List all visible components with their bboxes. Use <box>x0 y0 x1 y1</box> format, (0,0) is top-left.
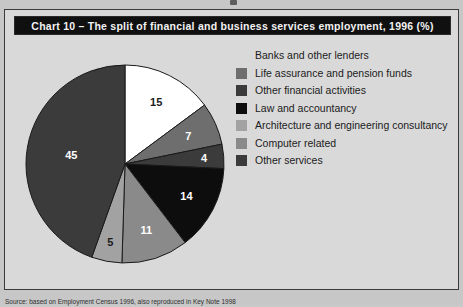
pie-chart: 15741411545 <box>25 64 225 264</box>
legend-swatch-icon <box>236 68 247 79</box>
plot-area: 15741411545 Banks and other lendersLife … <box>5 40 459 289</box>
legend-item-label: Life assurance and pension funds <box>255 68 412 79</box>
legend-swatch-icon <box>236 120 247 131</box>
legend-item: Law and accountancy <box>236 100 454 118</box>
pie-slice-label: 14 <box>180 190 193 202</box>
pie-slice-label: 5 <box>107 236 113 248</box>
legend-swatch-icon <box>236 138 247 149</box>
chart-frame: Chart 10 – The split of financial and bu… <box>4 9 459 290</box>
source-caption-text: Source: based on Employment Census 1996,… <box>5 298 305 305</box>
pie-chart-svg: 15741411545 <box>25 64 225 264</box>
scan-artifact-mark <box>230 0 237 5</box>
legend-swatch-icon <box>236 85 247 96</box>
legend-item: Banks and other lenders <box>236 47 454 65</box>
legend-swatch-icon <box>236 50 247 61</box>
legend-item: Architecture and engineering consultancy <box>236 117 454 135</box>
legend-item-label: Architecture and engineering consultancy <box>255 120 448 131</box>
chart-legend: Banks and other lendersLife assurance an… <box>236 47 454 170</box>
pie-slice-label: 4 <box>201 152 208 164</box>
pie-slice-label: 15 <box>150 96 162 108</box>
source-caption: Source: based on Employment Census 1996,… <box>5 298 305 307</box>
legend-item-label: Law and accountancy <box>255 103 357 114</box>
legend-item-label: Banks and other lenders <box>255 50 369 61</box>
chart-title: Chart 10 – The split of financial and bu… <box>31 20 433 32</box>
chart-title-bar: Chart 10 – The split of financial and bu… <box>14 16 451 35</box>
legend-swatch-icon <box>236 103 247 114</box>
legend-item: Life assurance and pension funds <box>236 65 454 83</box>
legend-item: Computer related <box>236 135 454 153</box>
legend-item-label: Other services <box>255 155 323 166</box>
legend-item: Other financial activities <box>236 82 454 100</box>
pie-slice-label: 7 <box>185 130 191 142</box>
legend-item-label: Other financial activities <box>255 85 366 96</box>
pie-slice-label: 45 <box>65 149 77 161</box>
legend-swatch-icon <box>236 155 247 166</box>
pie-slice-group <box>26 65 224 263</box>
legend-item-label: Computer related <box>255 138 336 149</box>
pie-slice-label: 11 <box>140 224 152 236</box>
legend-item: Other services <box>236 152 454 170</box>
